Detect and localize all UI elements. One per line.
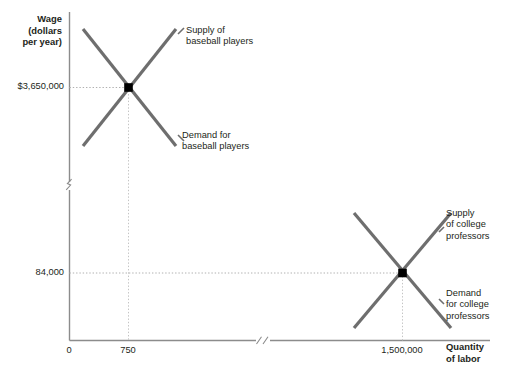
x-tick-label-origin: 0 [56, 345, 82, 356]
x-axis-break-icon [257, 337, 269, 344]
equilibrium-marker-baseball [124, 83, 133, 92]
x-tick-label-college-quantity: 1,500,000 [374, 345, 430, 356]
curve-label-supply-baseball: Supply of baseball players [186, 25, 278, 48]
leader-demand-college-icon [439, 299, 444, 304]
equilibrium-marker-college [398, 269, 407, 278]
y-tick-label-college-wage: 84,000 [2, 267, 64, 278]
supply-demand-figure: Wage (dollars per year) Quantity of labo… [0, 0, 511, 379]
chart-canvas [0, 0, 511, 379]
x-axis-title: Quantity of labor [446, 341, 509, 364]
y-tick-label-baseball-wage: $3,650,000 [2, 81, 64, 92]
curve-label-demand-college: Demand for college professors [446, 288, 510, 322]
curve-label-supply-college: Supply of college professors [446, 208, 510, 242]
y-axis-title: Wage (dollars per year) [2, 13, 62, 48]
leader-supply-baseball-icon [178, 28, 184, 34]
curve-label-demand-baseball: Demand for baseball players [182, 130, 274, 153]
x-tick-label-baseball-quantity: 750 [108, 345, 148, 356]
